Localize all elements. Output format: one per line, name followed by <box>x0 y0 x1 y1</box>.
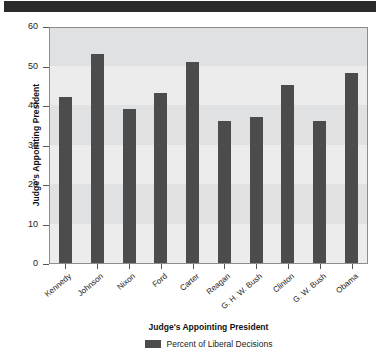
y-axis-tick <box>43 185 49 186</box>
bar[interactable] <box>218 121 231 263</box>
x-axis-tick <box>288 264 289 269</box>
bar-slot <box>113 28 145 263</box>
x-axis-category-text: Carter <box>178 271 202 293</box>
y-axis-tick <box>43 106 49 107</box>
y-axis-tick <box>43 264 49 265</box>
bar[interactable] <box>313 121 326 263</box>
bar-slot <box>82 28 114 263</box>
y-axis-tick-label: 0 <box>0 258 38 268</box>
bar[interactable] <box>154 93 167 263</box>
x-axis-tick <box>352 264 353 269</box>
bar-chart-figure: Judge's Appointing President Judge's App… <box>0 12 380 356</box>
y-axis-tick-label: 30 <box>0 140 38 150</box>
chart-legend: Percent of Liberal Decisions <box>49 339 368 349</box>
x-axis-tick <box>161 264 162 269</box>
bar[interactable] <box>186 62 199 263</box>
bars-container <box>50 28 367 263</box>
x-axis-tick <box>320 264 321 269</box>
bar-slot <box>50 28 82 263</box>
bar-slot <box>240 28 272 263</box>
y-axis-tick <box>43 27 49 28</box>
legend-swatch-liberal-decisions <box>145 340 161 348</box>
x-axis-tick <box>97 264 98 269</box>
bar[interactable] <box>59 97 72 263</box>
bar[interactable] <box>345 73 358 263</box>
bar-slot <box>304 28 336 263</box>
x-axis-tick <box>256 264 257 269</box>
x-axis-tick <box>65 264 66 269</box>
y-axis-tick-label: 20 <box>0 179 38 189</box>
y-axis-tick-label: 60 <box>0 21 38 31</box>
bar-slot <box>272 28 304 263</box>
y-axis-tick <box>43 146 49 147</box>
x-axis-title: Judge's Appointing President <box>49 322 368 332</box>
y-axis-tick-label: 50 <box>0 61 38 71</box>
bar-slot <box>335 28 367 263</box>
x-axis-category-text: Ford <box>150 271 169 289</box>
bar[interactable] <box>250 117 263 263</box>
bar[interactable] <box>91 54 104 263</box>
y-axis-tick-label: 40 <box>0 100 38 110</box>
y-axis-tick <box>43 225 49 226</box>
y-axis-tick-label: 10 <box>0 219 38 229</box>
bar[interactable] <box>281 85 294 263</box>
x-axis-category-text: Reagan <box>205 271 233 297</box>
x-axis-category-text: Obama <box>334 271 361 295</box>
x-axis-category-text: Kennedy <box>43 271 74 299</box>
bar-slot <box>145 28 177 263</box>
x-axis-category-text: Clinton <box>271 271 297 295</box>
x-axis-category-text: Johnson <box>76 271 106 298</box>
plot-area <box>49 27 368 264</box>
bar-slot <box>209 28 241 263</box>
y-axis-tick <box>43 67 49 68</box>
x-axis-tick <box>193 264 194 269</box>
top-banner <box>4 1 376 12</box>
x-axis-tick <box>224 264 225 269</box>
x-axis-tick <box>129 264 130 269</box>
x-axis-category-text: Nixon <box>115 271 137 292</box>
bar-slot <box>177 28 209 263</box>
bar[interactable] <box>123 109 136 263</box>
legend-label-liberal-decisions: Percent of Liberal Decisions <box>167 339 273 349</box>
